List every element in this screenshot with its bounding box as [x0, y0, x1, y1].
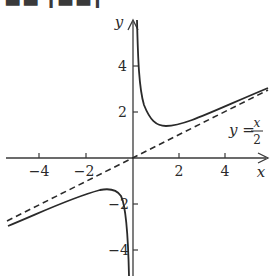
- x-tick-label: −2: [74, 163, 95, 179]
- asymptote-label-lhs: y =: [228, 121, 255, 139]
- y-axis-label: y: [114, 13, 124, 31]
- x-tick-label: 2: [175, 163, 184, 179]
- plot: −4 −2 2 4 x 4 2 −2 −4 y y =: [0, 0, 273, 276]
- curve-right-branch: [137, 20, 268, 126]
- y-tick-label: −4: [108, 242, 129, 258]
- cropped-heading-text: ▬▬ [▬▬]: [4, 0, 102, 8]
- asymptote-label: y = x 2: [228, 116, 263, 147]
- asymptote-label-den: 2: [253, 133, 261, 147]
- figure: ▬▬ [▬▬] −4 −2 2 4 x 4 2 −2 −4: [0, 0, 273, 276]
- asymptote-line: [7, 90, 268, 221]
- y-tick-label: −2: [108, 196, 129, 212]
- y-tick-label: 2: [118, 104, 127, 120]
- x-axis-label: x: [257, 163, 266, 181]
- x-axis: −4 −2 2 4 x: [6, 153, 268, 181]
- asymptote-label-num: x: [254, 116, 261, 130]
- y-axis: 4 2 −2 −4 y: [108, 13, 138, 276]
- cropped-heading: ▬▬ [▬▬]: [0, 0, 273, 8]
- x-tick-label: −4: [29, 163, 50, 179]
- x-tick-label: 4: [221, 163, 230, 179]
- y-tick-label: 4: [118, 58, 127, 74]
